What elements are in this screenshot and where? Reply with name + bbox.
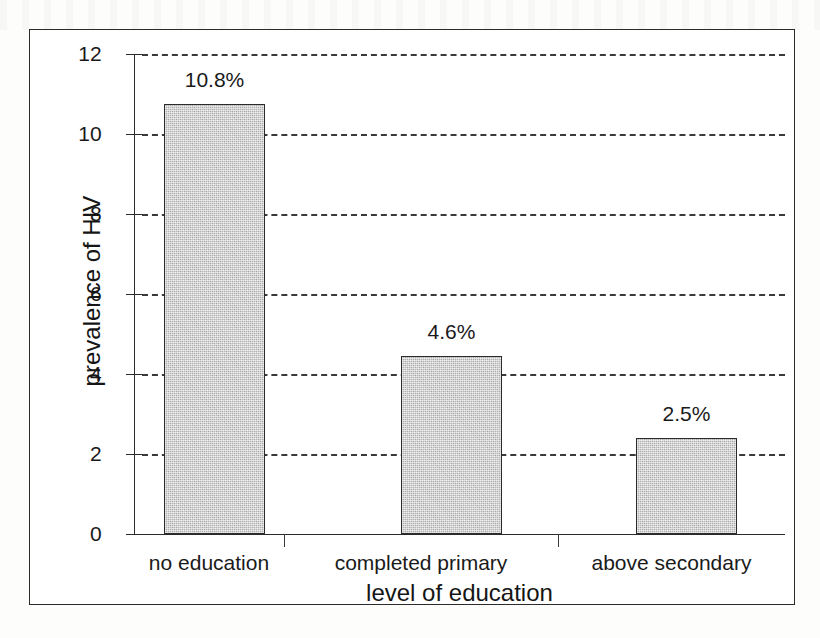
y-tick-2: [126, 454, 142, 455]
y-tick-label-0: 0: [42, 523, 102, 544]
scan-artifact-band: [0, 0, 820, 30]
gridline-12: [142, 54, 785, 56]
x-separator-tick-2: [558, 534, 559, 547]
figure-frame: 10.8% 4.6% 2.5% 12 10 8 6 4 2 0 no educa…: [29, 29, 795, 605]
bar-above-secondary: [636, 438, 737, 534]
bar-completed-primary: [401, 356, 502, 534]
y-tick-10: [126, 134, 142, 135]
bar-value-no-education: 10.8%: [154, 69, 275, 91]
y-tick-12: [126, 54, 142, 55]
y-tick-4: [126, 374, 142, 375]
category-label-completed-primary: completed primary: [284, 551, 558, 575]
category-label-above-secondary: above secondary: [558, 551, 785, 575]
category-label-no-education: no education: [134, 551, 284, 575]
y-axis-title: prevalence of HIV: [79, 81, 105, 501]
x-axis-title: level of education: [134, 580, 785, 606]
y-tick-8: [126, 214, 142, 215]
y-tick-0: [126, 534, 142, 535]
x-axis-line: [134, 534, 785, 535]
x-separator-tick-1: [284, 534, 285, 547]
plot-area: 10.8% 4.6% 2.5% 12 10 8 6 4 2 0 no educa…: [30, 30, 796, 606]
y-tick-6: [126, 294, 142, 295]
bar-no-education: [164, 104, 265, 534]
bar-value-completed-primary: 4.6%: [391, 321, 512, 343]
bar-value-above-secondary: 2.5%: [626, 403, 747, 425]
y-tick-label-12: 12: [42, 43, 102, 64]
